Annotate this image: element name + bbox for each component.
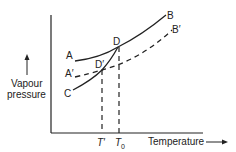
x-axis-label: Temperature — [148, 136, 205, 147]
label-a-prime: A′ — [65, 68, 74, 79]
label-d: D — [113, 36, 120, 47]
label-d-prime: D′ — [95, 59, 104, 70]
y-axis-label-line1: Vapour — [11, 78, 43, 89]
curve-a-prime-b-prime — [75, 30, 172, 77]
y-arrowhead-icon — [25, 54, 30, 60]
tick-t-prime: T′ — [97, 137, 106, 148]
freezing-point-diagram: A A′ C D D′ B B′ Vapour pressure T′ T 0 … — [0, 0, 236, 152]
curve-ab — [75, 15, 166, 61]
label-a: A — [66, 50, 73, 61]
label-b-prime: B′ — [172, 24, 181, 35]
x-arrowhead-icon — [222, 140, 228, 145]
label-c: C — [64, 88, 71, 99]
tick-t0-subscript: 0 — [121, 143, 125, 150]
label-b: B — [167, 10, 174, 21]
y-axis-label-line2: pressure — [7, 89, 46, 100]
